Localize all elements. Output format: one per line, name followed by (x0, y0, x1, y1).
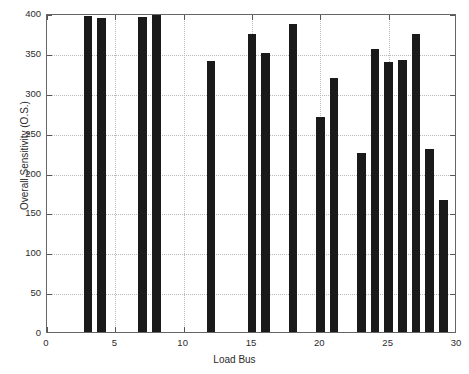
bar (398, 60, 406, 332)
x-axis-tick-label: 10 (168, 337, 198, 348)
x-axis-tick-top (184, 15, 185, 20)
y-axis-label-container: Overall Sensitivity (O.S.) (0, 0, 46, 374)
y-axis-tick-right (450, 214, 455, 215)
y-axis-tick-right (450, 254, 455, 255)
gridline-vertical (115, 15, 116, 332)
y-axis-tick (47, 55, 52, 56)
y-axis-tick-right (450, 175, 455, 176)
bar (97, 18, 105, 332)
x-axis-tick-top (389, 15, 390, 20)
y-axis-tick-right (450, 15, 455, 16)
x-axis-tick-label: 25 (373, 337, 403, 348)
y-axis-tick (47, 254, 52, 255)
bar (357, 153, 365, 332)
bar (371, 49, 379, 332)
bar (384, 62, 392, 332)
y-axis-label: Overall Sensitivity (O.S.) (19, 56, 30, 256)
plot-area (46, 14, 456, 333)
x-axis-tick-label: 5 (99, 337, 129, 348)
bar (425, 149, 433, 332)
bar (248, 34, 256, 332)
x-axis-tick-top (252, 15, 253, 20)
y-axis-tick (47, 95, 52, 96)
bar (138, 17, 146, 332)
bar (330, 78, 338, 332)
y-axis-tick (47, 175, 52, 176)
x-axis-label: Load Bus (0, 354, 469, 365)
x-axis-tick-label: 20 (304, 337, 334, 348)
x-axis-tick (47, 327, 48, 332)
bar (316, 117, 324, 332)
x-axis-tick (184, 327, 185, 332)
gridline-vertical (184, 15, 185, 332)
y-axis-tick (47, 214, 52, 215)
x-axis-tick-top (320, 15, 321, 20)
y-axis-tick-right (450, 95, 455, 96)
x-axis-tick (115, 327, 116, 332)
bar (152, 14, 160, 332)
y-axis-tick-right (450, 135, 455, 136)
bar (412, 34, 420, 332)
y-axis-tick (47, 294, 52, 295)
bar (207, 61, 215, 332)
bar (439, 200, 447, 332)
y-axis-tick (47, 135, 52, 136)
x-axis-tick-top (47, 15, 48, 20)
y-axis-tick-right (450, 55, 455, 56)
bar (261, 53, 269, 332)
x-axis-tick-top (115, 15, 116, 20)
x-axis-tick-label: 30 (441, 337, 469, 348)
bar (289, 24, 297, 332)
figure-canvas: 050100150200250300350400 051015202530 Ov… (0, 0, 469, 374)
x-axis-tick-label: 15 (236, 337, 266, 348)
bar (84, 16, 92, 332)
y-axis-tick-right (450, 294, 455, 295)
